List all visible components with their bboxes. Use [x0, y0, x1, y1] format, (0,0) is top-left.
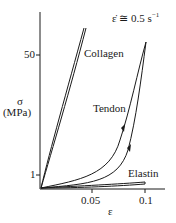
x-axis-title: ε [108, 206, 113, 217]
collagen-curve [41, 28, 86, 188]
ytick-50: 50 [24, 49, 35, 60]
y-axis-title: σ (MPa) [8, 96, 32, 118]
elastin-label: Elastin [128, 168, 159, 179]
ytick-1: 1 [30, 169, 36, 180]
xtick-0.05: 0.05 [81, 195, 100, 206]
tendon-label: Tendon [93, 103, 126, 114]
xtick-0.1: 0.1 [139, 195, 153, 206]
collagen-label: Collagen [84, 48, 124, 59]
strain-rate-annotation: ε̇ ≅ 0.5 s−1 [112, 12, 159, 24]
